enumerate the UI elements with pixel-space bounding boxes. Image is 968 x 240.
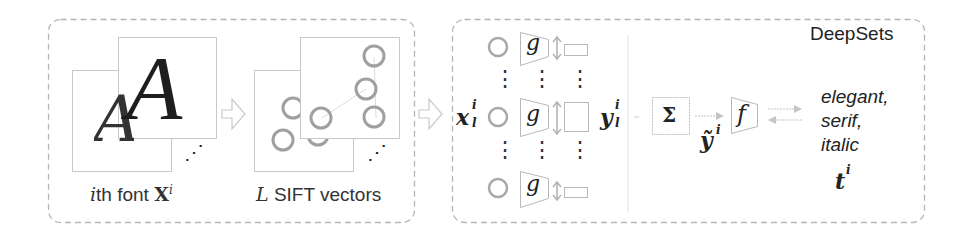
font-panel-label: ith font Xi bbox=[90, 183, 173, 206]
label-symbol: X bbox=[154, 183, 169, 205]
arrowhead-icon bbox=[768, 116, 776, 124]
g-text: g bbox=[526, 101, 540, 126]
updown-arrow-icon bbox=[553, 182, 561, 200]
label-text: th font bbox=[96, 184, 154, 205]
vdots-col2-lower: ⋮ bbox=[531, 137, 553, 163]
g-label-middle: g bbox=[526, 101, 540, 126]
f-text: f bbox=[737, 100, 746, 128]
symbol-text: y bbox=[600, 104, 613, 130]
updown-arrow-icon bbox=[553, 37, 561, 59]
output-vector-square bbox=[565, 103, 589, 132]
title-text: DeepSets bbox=[810, 23, 893, 44]
vdots-text: ⋮ bbox=[569, 66, 591, 91]
symbol-text: ỹ bbox=[700, 127, 713, 153]
updown-arrow-icon bbox=[553, 102, 561, 134]
g-label-bottom: g bbox=[526, 171, 540, 196]
arrowhead-icon bbox=[794, 105, 802, 113]
tag-symbol: t i bbox=[835, 168, 845, 194]
font-ellipsis: ⋰ bbox=[184, 140, 204, 164]
sup-text: i bbox=[716, 123, 721, 137]
symbol-text: t bbox=[835, 168, 845, 194]
vdots-text: ⋮ bbox=[531, 137, 553, 162]
aggregate-symbol: ỹ i bbox=[700, 127, 713, 153]
ellipsis-text: ⋰ bbox=[367, 141, 387, 163]
input-vector-icon bbox=[489, 108, 507, 126]
f-label: f bbox=[737, 100, 746, 128]
deepsets-title: DeepSets bbox=[810, 23, 893, 45]
vdots-col1-upper: ⋮ bbox=[494, 66, 516, 92]
vdots-text: ⋮ bbox=[494, 66, 516, 91]
ellipsis-text: ⋰ bbox=[184, 141, 204, 163]
vdots-col1-lower: ⋮ bbox=[494, 137, 516, 163]
sub-text: l bbox=[472, 116, 477, 130]
sup-text: i bbox=[472, 98, 477, 112]
sub-text: l bbox=[615, 116, 620, 130]
tag-item: elegant, bbox=[821, 85, 889, 109]
tag-item: italic bbox=[821, 133, 889, 157]
tag-item: serif, bbox=[821, 109, 889, 133]
font-glyph-front: A bbox=[126, 42, 182, 134]
vdots-col3-upper: ⋮ bbox=[569, 66, 591, 92]
vdots-text: ⋮ bbox=[531, 66, 553, 91]
sigma-text: Σ bbox=[662, 103, 676, 127]
vdots-col2-upper: ⋮ bbox=[531, 66, 553, 92]
arrow-font-to-sift-icon bbox=[222, 99, 245, 129]
g-text: g bbox=[526, 171, 540, 196]
arrowhead-icon bbox=[716, 112, 724, 120]
output-symbol: y i l bbox=[600, 104, 613, 130]
symbol-text: x bbox=[456, 104, 469, 130]
label-text: SIFT vectors bbox=[269, 184, 382, 205]
vdots-col3-lower: ⋮ bbox=[569, 137, 591, 163]
input-vector-icon bbox=[489, 179, 507, 197]
input-vector-icon bbox=[489, 38, 507, 56]
vdots-text: ⋮ bbox=[569, 137, 591, 162]
g-text: g bbox=[526, 30, 540, 55]
sup-text: i bbox=[846, 163, 851, 177]
g-label-top: g bbox=[526, 30, 540, 55]
sum-symbol: Σ bbox=[662, 103, 676, 127]
input-symbol: x i l bbox=[456, 104, 469, 130]
arrow-sift-to-deepsets-icon bbox=[419, 99, 442, 129]
sift-ellipsis: ⋰ bbox=[367, 140, 387, 164]
output-vector-flat bbox=[565, 45, 588, 56]
style-tags: elegant, serif, italic bbox=[821, 85, 889, 157]
sift-panel-label: L SIFT vectors bbox=[256, 183, 381, 206]
label-symbol: L bbox=[256, 183, 269, 205]
label-sup: i bbox=[169, 183, 173, 197]
output-vector-flat bbox=[565, 188, 588, 198]
vdots-text: ⋮ bbox=[494, 137, 516, 162]
sup-text: i bbox=[615, 98, 620, 112]
glyph-front-text: A bbox=[126, 37, 182, 139]
